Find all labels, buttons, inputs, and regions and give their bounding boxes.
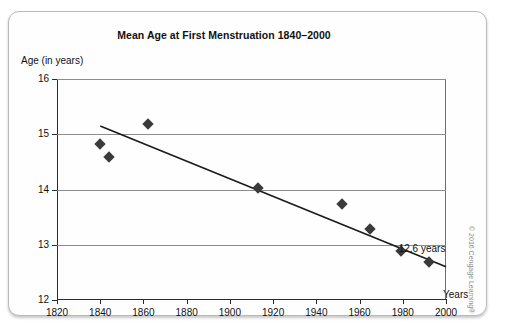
- x-tick-label-1900: 1900: [210, 308, 250, 318]
- x-tick-label-1840: 1840: [80, 308, 120, 318]
- x-tick-label-1920: 1920: [253, 308, 293, 318]
- y-axis-label: Age (in years): [21, 55, 83, 66]
- y-tick-label-16: 16: [23, 74, 49, 84]
- copyright-notice: © 2016 Cengage Learning®: [468, 226, 475, 313]
- y-tick-label-14: 14: [23, 185, 49, 195]
- x-tick-label-1880: 1880: [167, 308, 207, 318]
- x-tick-label-1940: 1940: [296, 308, 336, 318]
- annotation-label: 12.6 years: [399, 243, 446, 254]
- x-tick-label-1860: 1860: [123, 308, 163, 318]
- x-tick-label-1980: 1980: [383, 308, 423, 318]
- y-tick-label-13: 13: [23, 240, 49, 250]
- trend-line: [57, 79, 446, 300]
- x-tick-label-1820: 1820: [37, 308, 77, 318]
- plot-area: 1213141516 18201840186018801900192019401…: [57, 79, 446, 300]
- y-tick-label-12: 12: [23, 295, 49, 305]
- y-tick-label-15: 15: [23, 129, 49, 139]
- figure-card: Mean Age at First Menstruation 1840–2000…: [8, 11, 487, 316]
- x-tick-mark-2000: [446, 299, 447, 304]
- x-tick-label-2000: 2000: [426, 308, 466, 318]
- x-tick-label-1960: 1960: [340, 308, 380, 318]
- chart-title: Mean Age at First Menstruation 1840–2000: [9, 29, 439, 41]
